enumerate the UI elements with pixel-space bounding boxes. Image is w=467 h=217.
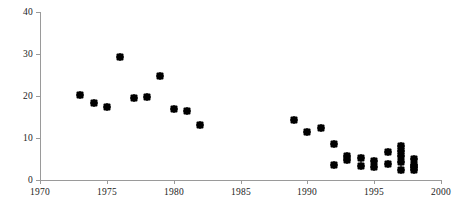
y-tick-mark <box>36 96 41 97</box>
x-tick-mark <box>307 180 308 184</box>
x-tick-mark <box>441 180 442 184</box>
x-tick-label: 1995 <box>354 187 394 198</box>
data-point <box>330 160 338 168</box>
y-tick-label: 30 <box>0 49 33 59</box>
data-point <box>290 116 298 124</box>
data-point <box>116 53 124 61</box>
data-point <box>103 103 111 111</box>
plot-area: 010203040 1970197519801985199019952000 <box>0 0 467 217</box>
data-point <box>343 156 351 164</box>
data-point <box>383 160 391 168</box>
x-tick-label: 1990 <box>287 187 327 198</box>
x-tick-label: 1970 <box>20 187 60 198</box>
data-point <box>370 162 378 170</box>
x-tick-mark <box>107 180 108 184</box>
data-point <box>183 106 191 114</box>
data-point <box>169 104 177 112</box>
data-point <box>316 124 324 132</box>
data-point <box>129 93 137 101</box>
data-point <box>397 166 405 174</box>
x-tick-label: 2000 <box>421 187 461 198</box>
x-tick-mark <box>374 180 375 184</box>
data-point <box>357 161 365 169</box>
x-tick-mark <box>241 180 242 184</box>
data-point <box>303 127 311 135</box>
x-tick-mark <box>174 180 175 184</box>
data-point <box>410 166 418 174</box>
data-point <box>143 93 151 101</box>
x-tick-label: 1985 <box>221 187 261 198</box>
x-tick-label: 1975 <box>87 187 127 198</box>
y-tick-mark <box>36 12 41 13</box>
x-tick-mark <box>40 180 41 184</box>
x-tick-label: 1980 <box>154 187 194 198</box>
y-tick-mark <box>36 138 41 139</box>
data-point <box>196 121 204 129</box>
data-point <box>76 91 84 99</box>
y-tick-label: 0 <box>0 175 33 185</box>
scatter-chart: 010203040 1970197519801985199019952000 <box>0 0 467 217</box>
data-point <box>89 99 97 107</box>
data-point <box>156 72 164 80</box>
y-tick-label: 40 <box>0 7 33 17</box>
data-point <box>330 139 338 147</box>
y-tick-label: 20 <box>0 91 33 101</box>
y-tick-mark <box>36 54 41 55</box>
data-point <box>383 148 391 156</box>
y-tick-label: 10 <box>0 133 33 143</box>
